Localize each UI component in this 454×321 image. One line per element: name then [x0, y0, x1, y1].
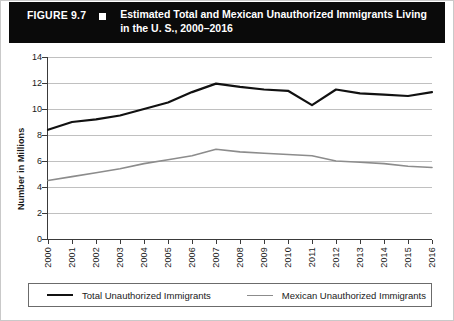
figure-number-label: FIGURE 9.7	[27, 8, 86, 21]
line-total-unauthorized-immigrants	[48, 84, 432, 130]
x-tick-label: 2007	[211, 247, 221, 268]
x-tick-label: 2004	[139, 247, 149, 268]
y-tick-label: 8	[20, 130, 42, 140]
x-tick-label: 2014	[379, 247, 389, 268]
x-tick-mark	[408, 240, 409, 244]
x-tick-label: 2011	[307, 247, 317, 267]
gray-line-swatch-icon	[247, 295, 273, 296]
x-tick-mark	[216, 240, 217, 244]
x-tick-label: 2001	[67, 247, 77, 268]
y-tick-label: 12	[20, 78, 42, 88]
chart-container: Number in Millions 024681012142000200120…	[0, 44, 454, 279]
figure-page: FIGURE 9.7 Estimated Total and Mexican U…	[0, 0, 454, 321]
legend-entry-mexican: Mexican Unauthorized Immigrants	[247, 290, 426, 301]
line-mexican-unauthorized-immigrants	[48, 149, 432, 180]
x-tick-label: 2005	[163, 247, 173, 268]
figure-header-bar: FIGURE 9.7 Estimated Total and Mexican U…	[9, 2, 445, 43]
x-tick-label: 2015	[403, 247, 413, 268]
data-series-layer	[48, 57, 432, 240]
y-tick-label: 4	[20, 182, 42, 192]
y-tick-mark	[42, 213, 47, 214]
y-tick-mark	[42, 109, 47, 110]
y-tick-mark	[42, 239, 47, 240]
x-tick-label: 2003	[115, 247, 125, 268]
legend-label-total: Total Unauthorized Immigrants	[82, 290, 211, 301]
x-tick-label: 2010	[283, 247, 293, 268]
x-tick-mark	[336, 240, 337, 244]
y-tick-mark	[42, 135, 47, 136]
y-tick-mark	[42, 161, 47, 162]
x-tick-mark	[72, 240, 73, 244]
x-tick-mark	[120, 240, 121, 244]
chart-legend: Total Unauthorized Immigrants Mexican Un…	[28, 283, 432, 307]
y-tick-mark	[42, 187, 47, 188]
x-tick-label: 2009	[259, 247, 269, 268]
y-tick-label: 6	[20, 156, 42, 166]
x-tick-mark	[192, 240, 193, 244]
legend-label-mexican: Mexican Unauthorized Immigrants	[282, 290, 426, 301]
x-tick-mark	[96, 240, 97, 244]
x-tick-mark	[360, 240, 361, 244]
x-tick-label: 2013	[355, 247, 365, 268]
y-tick-label: 0	[20, 234, 42, 244]
figure-title: Estimated Total and Mexican Unauthorized…	[120, 8, 435, 35]
x-tick-mark	[432, 240, 433, 244]
x-tick-mark	[312, 240, 313, 244]
x-tick-mark	[264, 240, 265, 244]
y-tick-label: 2	[20, 208, 42, 218]
x-tick-mark	[168, 240, 169, 244]
square-bullet-icon	[99, 13, 106, 20]
x-tick-label: 2006	[187, 247, 197, 268]
x-tick-label: 2002	[91, 247, 101, 268]
x-tick-label: 2016	[427, 247, 437, 268]
x-tick-label: 2008	[235, 247, 245, 268]
y-tick-label: 14	[20, 52, 42, 62]
x-tick-label: 2012	[331, 247, 341, 268]
y-tick-label: 10	[20, 104, 42, 114]
x-tick-mark	[240, 240, 241, 244]
x-tick-mark	[144, 240, 145, 244]
y-tick-mark	[42, 83, 47, 84]
legend-entry-total: Total Unauthorized Immigrants	[47, 290, 211, 301]
x-tick-label: 2000	[43, 247, 53, 268]
x-tick-mark	[384, 240, 385, 244]
black-line-swatch-icon	[47, 294, 73, 296]
x-tick-mark	[288, 240, 289, 244]
x-tick-mark	[48, 240, 49, 244]
y-tick-mark	[42, 57, 47, 58]
